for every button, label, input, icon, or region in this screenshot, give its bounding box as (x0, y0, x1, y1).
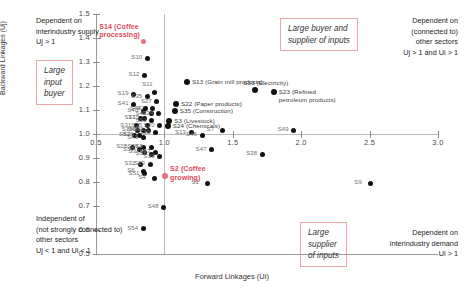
y-tick-label: 1.1 (62, 105, 90, 114)
data-point-s38[interactable] (260, 152, 265, 157)
x-tick (164, 131, 165, 138)
data-point-label-s14: S14 (Coffee processing) (99, 23, 151, 40)
y-tick (93, 158, 100, 159)
data-point-label-s29: S29 (134, 160, 145, 166)
data-point-s35[interactable] (172, 108, 178, 114)
annotation-line: (not strongly connected to) (36, 225, 122, 236)
data-point-label-s35: S35 (Construction) (180, 107, 233, 114)
data-point-label-s11: S11 (142, 81, 153, 87)
y-tick-label: 0.8 (62, 177, 90, 186)
data-point-s49[interactable] (291, 128, 296, 133)
data-point-label-s43: S43 (127, 134, 138, 140)
data-point-label-s48: S48 (148, 203, 159, 209)
x-axis-line (96, 254, 438, 255)
annotation-line: Large (308, 227, 339, 239)
y-tick (93, 110, 100, 111)
annotation-line: Uj > 1 and Ui > 1 (403, 48, 458, 59)
data-point-s10[interactable] (145, 56, 150, 61)
data-point-s12[interactable] (142, 73, 147, 78)
y-tick (93, 182, 100, 183)
annotation-line: other sectors (36, 235, 122, 246)
annotation-line: supplier (308, 239, 339, 251)
annotation-bottom-right: Dependent oninterindustry demandUi > 1 (390, 228, 458, 260)
data-point-label-s38: S38 (246, 150, 257, 156)
data-point-label-s41: S41 (118, 100, 129, 106)
data-point-s43[interactable] (141, 135, 146, 140)
data-point-label-s7: S7 (207, 126, 215, 132)
annotation-line: input (44, 77, 65, 89)
annotation-line: Dependent on (36, 16, 99, 27)
annotation-line: other sectors (403, 37, 458, 48)
data-point-s48[interactable] (161, 205, 166, 210)
annotation-line: interindustry demand (390, 239, 458, 250)
annotation-line: Ui > 1 (390, 249, 458, 260)
data-point-s54[interactable] (141, 226, 146, 231)
data-point-label-s10: S10 (131, 54, 142, 60)
y-tick (93, 86, 100, 87)
plot-area: 0.50.60.70.80.91.01.11.21.31.41.50.51.01… (96, 14, 438, 254)
data-point-s14[interactable] (141, 39, 146, 44)
data-point-label-s13b: S13 (175, 129, 186, 135)
y-tick-label: 0.7 (62, 201, 90, 210)
data-point-label-s27: S27 (141, 98, 152, 104)
data-point-s9[interactable] (368, 181, 373, 186)
y-tick (93, 206, 100, 207)
scatter-chart-figure: Backward Linkages (Uj) Forward Linkages … (0, 0, 464, 290)
data-point-s34[interactable] (156, 111, 161, 116)
annotation-line: Dependent on (403, 16, 458, 27)
data-point-label-s23: S23 (Refined petroleum products) (279, 88, 341, 104)
annotation-line: (connected to) (403, 27, 458, 38)
y-tick-label: 1.0 (62, 129, 90, 138)
data-point-s47[interactable] (209, 147, 214, 152)
annotation-line: of inputs (308, 250, 339, 262)
annotation-line: supplier of inputs (288, 35, 350, 47)
data-point-label-s22: S22 (Paper products) (181, 100, 242, 107)
data-point-label-s34: S34 (142, 110, 153, 116)
data-point-s2[interactable] (162, 173, 168, 179)
y-tick-label: 0.9 (62, 153, 90, 162)
annotation-line: Uj > 1 (36, 37, 99, 48)
data-point-s46[interactable] (200, 133, 205, 138)
annotation-box-large-input-buyer: Largeinputbuyer (36, 60, 73, 105)
data-point-label-s54: S54 (127, 225, 138, 231)
data-point-label-s49: S49 (278, 126, 289, 132)
data-point-s1[interactable] (205, 181, 210, 186)
annotation-line: Independent of (36, 214, 122, 225)
annotation-line: Uj < 1 and Ui < 1 (36, 246, 122, 257)
data-point-label-s12: S12 (129, 71, 140, 77)
x-tick-label: 3.0 (424, 138, 452, 147)
annotation-bottom-left: Independent of(not strongly connected to… (36, 214, 122, 256)
x-tick-label: 2.0 (287, 138, 315, 147)
data-point-s39[interactable] (157, 154, 162, 159)
annotation-box-large-supplier: Largesupplierof inputs (300, 222, 347, 267)
annotation-line: Dependent on (390, 228, 458, 239)
data-point-label-s46: S46 (186, 131, 197, 137)
data-point-label-s1: S1 (191, 179, 199, 185)
y-tick (93, 62, 100, 63)
x-tick (438, 131, 439, 138)
data-point-s7[interactable] (220, 128, 225, 133)
data-point-label-s20: S20 (144, 122, 155, 128)
y-tick (93, 14, 100, 15)
data-point-s4[interactable] (152, 176, 157, 181)
data-point-s27[interactable] (154, 99, 159, 104)
data-point-s24[interactable] (165, 123, 171, 129)
x-tick (370, 131, 371, 138)
data-point-s11[interactable] (152, 90, 157, 95)
x-tick (96, 131, 97, 138)
data-point-label-s9: S9 (354, 179, 362, 185)
y-axis-title: Backward Linkages (Uj) (0, 21, 6, 95)
data-point-label-s47: S47 (196, 146, 207, 152)
x-tick (301, 131, 302, 138)
annotation-line: interindustry supply (36, 27, 99, 38)
annotation-top-left: Dependent oninterindustry supplyUj > 1 (36, 16, 99, 48)
data-point-s20[interactable] (157, 123, 162, 128)
data-point-label-s33: S33 (Electricity) (243, 79, 288, 86)
data-point-s33[interactable] (252, 87, 258, 93)
data-point-s22[interactable] (173, 101, 179, 107)
data-point-s29[interactable] (148, 162, 153, 167)
data-point-label-s39: S39 (144, 153, 155, 159)
data-point-s13[interactable] (184, 79, 190, 85)
data-point-s23[interactable] (271, 89, 277, 95)
data-point-label-s4: S4 (138, 174, 146, 180)
